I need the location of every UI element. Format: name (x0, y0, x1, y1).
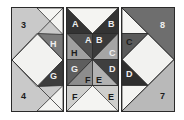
quilt-block-figure: 3 4 H G A B A B (0, 0, 184, 120)
right-panel: 8 7 C D (121, 7, 175, 112)
middle-panel-shapes (67, 8, 118, 111)
middle-panel: A B A B H C G D F E F E (66, 7, 119, 112)
left-panel-shapes (12, 8, 63, 111)
left-panel: 3 4 H G (11, 7, 64, 112)
right-panel-shapes (122, 8, 174, 111)
